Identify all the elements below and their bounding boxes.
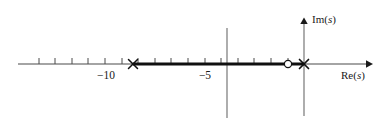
- real-axis-label-tail: ): [361, 69, 365, 81]
- tick-label-neg5: −5: [193, 70, 217, 82]
- imag-axis-label-tail: ): [332, 13, 336, 25]
- tick-label-neg10: −10: [92, 70, 120, 82]
- real-axis-arrowhead: [366, 60, 373, 68]
- real-axis-label-head: Re(: [341, 69, 357, 81]
- zero-marker-circle: [284, 60, 291, 67]
- imag-axis-label: Im(s): [312, 14, 336, 25]
- root-locus-figure: −10 −5 Im(s) Re(s): [0, 0, 381, 123]
- imag-axis-arrowhead: [300, 18, 307, 25]
- imag-axis-label-head: Im(: [312, 13, 328, 25]
- real-axis-label: Re(s): [341, 70, 365, 81]
